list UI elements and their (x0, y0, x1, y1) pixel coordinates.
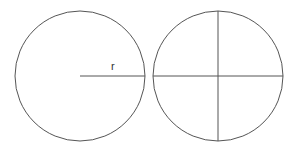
circle-quartered-group (153, 11, 283, 141)
radius-label: r (111, 60, 115, 72)
circle-with-radius-group: r (15, 11, 145, 141)
diagram-canvas: r (0, 0, 297, 151)
